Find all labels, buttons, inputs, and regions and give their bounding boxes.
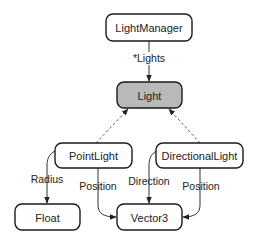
node-label: Float bbox=[35, 212, 59, 224]
class-diagram: *Lights Radius Position Direction Positi… bbox=[0, 0, 257, 244]
node-label: DirectionalLight bbox=[162, 150, 238, 162]
edge-directionallight-vector3-position bbox=[183, 168, 200, 217]
node-directionallight[interactable]: DirectionalLight bbox=[156, 143, 243, 168]
node-float[interactable]: Float bbox=[15, 204, 80, 230]
edge-directionallight-light bbox=[169, 109, 200, 143]
node-label: Light bbox=[138, 90, 162, 102]
node-light[interactable]: Light bbox=[117, 82, 182, 108]
edge-label-position-directional: Position bbox=[182, 180, 220, 192]
node-pointlight[interactable]: PointLight bbox=[55, 143, 132, 168]
node-lightmanager[interactable]: LightManager bbox=[106, 14, 192, 41]
node-label: Vector3 bbox=[131, 212, 168, 224]
edge-label-lights: *Lights bbox=[133, 52, 165, 64]
edge-label-direction: Direction bbox=[128, 175, 170, 187]
node-label: PointLight bbox=[69, 150, 118, 162]
edges: *Lights Radius Position Direction Positi… bbox=[31, 41, 220, 217]
edge-label-position-point: Position bbox=[79, 180, 117, 192]
node-vector3[interactable]: Vector3 bbox=[117, 204, 182, 230]
node-label: LightManager bbox=[115, 22, 183, 34]
edge-pointlight-vector3 bbox=[98, 168, 116, 217]
edge-pointlight-light bbox=[96, 109, 128, 143]
edge-label-radius: Radius bbox=[31, 173, 64, 185]
